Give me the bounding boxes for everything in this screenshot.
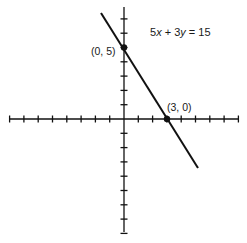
equation-label: 5x + 3y = 15 [150,26,211,38]
graph-canvas: (0, 5) (3, 0) 5x + 3y = 15 [0,0,247,243]
point-y-intercept [121,44,127,50]
point-label-y-intercept: (0, 5) [91,45,116,57]
y-axis [121,7,128,233]
point-label-x-intercept: (3, 0) [167,101,192,113]
point-x-intercept [164,116,170,122]
